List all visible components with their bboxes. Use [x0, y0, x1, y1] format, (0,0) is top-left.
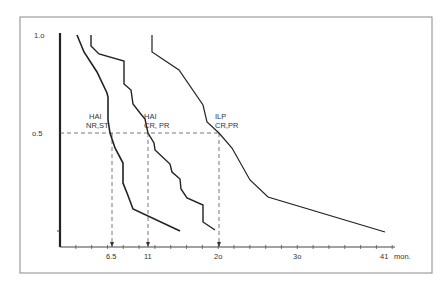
curve-ilp-crpr [152, 35, 385, 232]
x-tick-label-30: 3o [293, 252, 301, 261]
survival-chart: 1.o o.5 HAI NR,ST HAI CR, PR ILP CR,PR 6… [0, 0, 447, 286]
x-tick-label-11: 11 [144, 252, 152, 261]
x-tick-label-41: 41 [380, 252, 388, 261]
chart-frame [20, 17, 432, 273]
series-label-hai-nrst-2: NR,ST [86, 121, 109, 130]
arrow-icon [110, 242, 114, 247]
x-tick-label-20: 2o [214, 252, 222, 261]
series-label-hai-crpr-1: HAI [144, 112, 157, 121]
arrow-icon [217, 242, 221, 247]
x-axis-unit-label: mon. [394, 252, 411, 261]
series-label-hai-crpr-2: CR, PR [144, 121, 170, 130]
series-label-ilp-crpr-1: ILP [215, 112, 226, 121]
series-label-ilp-crpr-2: CR,PR [215, 121, 239, 130]
curve-hai-nrst [77, 35, 180, 231]
y-tick-label-1: 1.o [34, 31, 44, 40]
x-minor-ticks [76, 245, 392, 249]
x-tick-label-6-5: 6.5 [106, 252, 116, 261]
arrow-icon [146, 242, 150, 247]
series-label-hai-nrst-1: HAI [89, 112, 102, 121]
y-tick-label-05: o.5 [32, 129, 42, 138]
